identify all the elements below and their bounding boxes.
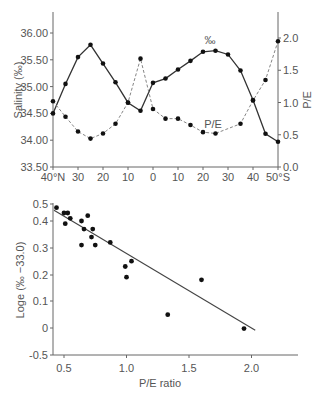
x-tick-label: 20 <box>197 171 209 183</box>
y-tick-label: 34.50 <box>20 107 48 119</box>
x-tick-label: 0.5 <box>56 362 71 374</box>
data-point <box>90 227 95 232</box>
y-tick-label: 0.1 <box>33 295 48 307</box>
data-point <box>88 136 93 141</box>
y-tick-label: 0.3 <box>33 242 48 254</box>
data-point <box>276 140 281 145</box>
x-axis-label: P/E ratio <box>139 377 181 389</box>
data-point <box>188 123 193 128</box>
data-point <box>251 98 256 103</box>
data-point <box>176 116 181 121</box>
x-tick-label: 2.0 <box>244 362 259 374</box>
y-axis-label: Salinity (‰) <box>12 62 24 119</box>
y-tick-label: 0 <box>42 322 48 334</box>
y-tick-label: -0.5 <box>29 349 48 361</box>
data-point <box>63 221 68 226</box>
data-point <box>129 259 134 264</box>
data-point <box>126 100 131 105</box>
data-point <box>108 240 113 245</box>
data-point <box>163 116 168 121</box>
data-point <box>65 211 70 216</box>
figure: 33.5034.0034.5035.0035.5036.000.00.51.01… <box>0 0 318 393</box>
data-point <box>176 67 181 72</box>
data-point <box>226 52 231 57</box>
y-tick-label: 0.5 <box>33 198 48 210</box>
y-tick-label: 0.2 <box>33 269 48 281</box>
x-tick-label: 40 <box>247 171 259 183</box>
data-point <box>263 78 268 83</box>
x-tick-label: 0 <box>150 171 156 183</box>
data-point <box>76 55 81 60</box>
data-point <box>201 49 206 54</box>
data-point <box>163 76 168 81</box>
y-tick-label: 35.00 <box>20 81 48 93</box>
data-point <box>88 42 93 47</box>
data-point <box>201 130 206 135</box>
salinity-line <box>53 45 278 142</box>
x-tick-label: 30 <box>72 171 84 183</box>
y-tick-label: 35.50 <box>20 54 48 66</box>
data-point <box>138 108 143 113</box>
y-right-tick-label: 1.5 <box>283 64 298 76</box>
x-tick-label: 30 <box>222 171 234 183</box>
x-tick-label: 40°N <box>41 171 66 183</box>
data-point <box>151 81 156 86</box>
y-tick-label: 34.00 <box>20 134 48 146</box>
data-point <box>79 243 84 248</box>
x-tick-label: 10 <box>122 171 134 183</box>
data-point <box>188 59 193 64</box>
data-point <box>238 121 243 126</box>
salinity-annotation: ‰ <box>205 34 216 46</box>
data-point <box>79 219 84 224</box>
data-point <box>199 277 204 282</box>
data-point <box>54 205 59 210</box>
y-right-tick-label: 2.0 <box>283 32 298 44</box>
data-point <box>51 111 56 116</box>
data-point <box>82 227 87 232</box>
data-point <box>151 107 156 112</box>
data-point <box>113 80 118 85</box>
data-point <box>138 56 143 61</box>
x-tick-label: 10 <box>172 171 184 183</box>
y-right-axis-label: P/E <box>301 91 313 109</box>
data-point <box>113 121 118 126</box>
x-tick-label: 1.5 <box>181 362 196 374</box>
data-point <box>51 99 56 104</box>
data-point <box>101 131 106 136</box>
data-point <box>242 326 247 331</box>
data-point <box>124 275 129 280</box>
y-tick-label: 36.00 <box>20 27 48 39</box>
data-point <box>68 216 73 221</box>
y-tick-label: 0.4 <box>33 215 48 227</box>
log-salinity-vs-pe-scatter: -0.500.10.20.30.40.50.51.01.52.0P/E rati… <box>14 198 298 389</box>
data-point <box>263 131 268 136</box>
data-point <box>76 129 81 134</box>
salinity-pe-chart: 33.5034.0034.5035.0035.5036.000.00.51.01… <box>12 12 313 183</box>
y-axis-label: Loge (‰ −33.0) <box>14 242 26 319</box>
data-point <box>276 39 281 44</box>
data-point <box>63 82 68 87</box>
data-point <box>213 131 218 136</box>
data-point <box>85 213 90 218</box>
pe-annotation: P/E <box>204 118 222 130</box>
x-tick-label: 20 <box>97 171 109 183</box>
data-point <box>101 61 106 66</box>
data-point <box>238 68 243 73</box>
pe-line <box>53 41 278 138</box>
data-point <box>89 235 94 240</box>
data-point <box>213 48 218 53</box>
data-point <box>93 243 98 248</box>
x-tick-label: 1.0 <box>119 362 134 374</box>
data-point <box>165 312 170 317</box>
x-tick-label: 50°S <box>266 171 290 183</box>
data-point <box>123 264 128 269</box>
data-point <box>63 114 68 119</box>
y-right-tick-label: 0.5 <box>283 129 298 141</box>
y-right-tick-label: 1.0 <box>283 97 298 109</box>
